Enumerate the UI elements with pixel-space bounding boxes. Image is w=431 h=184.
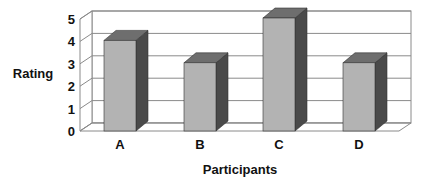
bar-chart: 012345 ABCD Rating Participants bbox=[0, 0, 431, 184]
y-tick-label: 1 bbox=[68, 102, 75, 117]
x-tick-label: A bbox=[115, 137, 125, 152]
y-tick-label: 4 bbox=[68, 34, 76, 49]
y-axis-ticks: 012345 bbox=[68, 12, 76, 139]
bar-A bbox=[104, 30, 148, 131]
bar-C bbox=[263, 8, 307, 131]
x-axis-ticks: ABCD bbox=[115, 137, 363, 152]
bar-D bbox=[343, 53, 387, 131]
x-axis-title: Participants bbox=[203, 162, 277, 177]
x-tick-label: B bbox=[195, 137, 204, 152]
y-tick-label: 0 bbox=[68, 124, 75, 139]
y-axis-title: Rating bbox=[13, 66, 54, 81]
y-tick-label: 3 bbox=[68, 57, 75, 72]
x-tick-label: C bbox=[274, 137, 284, 152]
y-tick-label: 5 bbox=[68, 12, 75, 27]
bar-B bbox=[184, 53, 228, 131]
side-wall bbox=[80, 11, 92, 131]
y-tick-label: 2 bbox=[68, 79, 75, 94]
x-tick-label: D bbox=[354, 137, 363, 152]
